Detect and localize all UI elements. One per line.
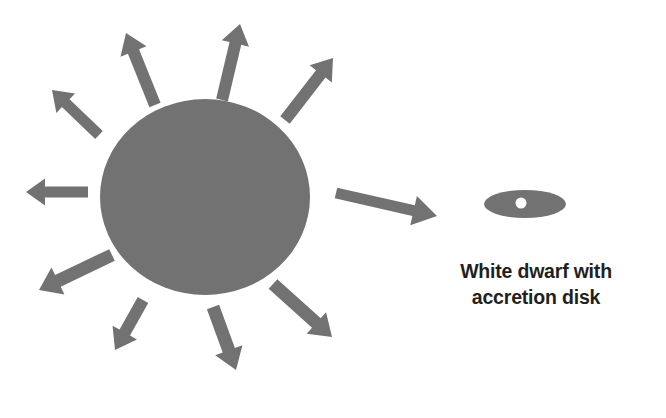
donor-star-shape [100,99,310,295]
diagram-canvas: White dwarf with accretion disk [0,0,666,418]
astronomy-diagram-svg [0,0,666,418]
canvas-background [0,0,666,418]
white-dwarf-core-hole [516,198,527,209]
